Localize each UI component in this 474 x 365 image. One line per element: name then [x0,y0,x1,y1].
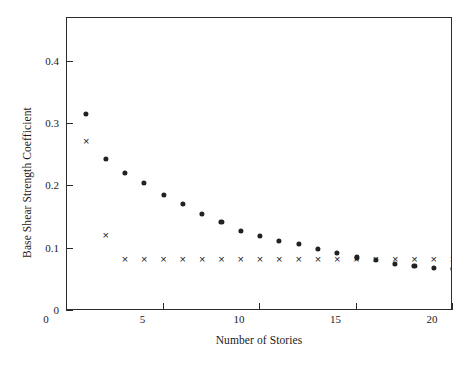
chart-figure: Base Shear Strength Coefficient 00.10.20… [0,0,474,365]
data-point-dot [450,267,452,272]
plot-area [66,17,452,310]
data-point-dot [200,211,205,216]
x-axis-tick-label: 0 [26,313,66,325]
data-point-dot [315,247,320,252]
data-point-dot [257,233,262,238]
data-point-dot [393,262,398,267]
data-point-dot [296,242,301,247]
data-point-dot [122,170,127,175]
x-axis-tick-label: 10 [219,313,259,325]
data-point-cross [217,255,225,263]
data-point-cross [256,255,264,263]
x-axis-tick-label: 20 [412,313,452,325]
data-point-cross [410,255,418,263]
data-point-dot [354,255,359,260]
y-axis-tick-label: 0.2 [0,179,59,191]
data-point-cross [82,137,90,145]
data-point-dot [142,180,147,185]
x-axis-tick-label: 15 [316,313,356,325]
x-axis-tick [452,303,453,310]
data-point-cross [198,255,206,263]
data-point-cross [314,255,322,263]
data-point-cross [372,255,380,263]
y-axis-tick-label: 0.4 [0,55,59,67]
data-point-cross [333,255,341,263]
data-point-cross [140,255,148,263]
data-point-cross [430,255,438,263]
x-axis-tick-label: 5 [123,313,163,325]
data-point-cross [275,255,283,263]
data-point-cross [179,255,187,263]
data-point-cross [121,255,129,263]
data-point-dot [412,264,417,269]
data-point-dot [431,265,436,270]
data-point-cross [391,255,399,263]
data-point-dot [84,111,89,116]
data-point-dot [180,201,185,206]
data-point-cross [353,255,361,263]
data-point-cross [295,255,303,263]
y-axis-tick-label: 0.1 [0,242,59,254]
data-point-dot [161,192,166,197]
x-axis-title: Number of Stories [66,334,452,346]
y-axis-tick-label: 0.3 [0,117,59,129]
data-point-cross [449,255,452,263]
data-point-dot [219,219,224,224]
data-point-cross [160,255,168,263]
data-point-cross [102,231,110,239]
data-point-dot [373,257,378,262]
data-point-dot [238,229,243,234]
y-axis-tick [66,310,73,311]
data-point-cross [237,255,245,263]
data-point-dot [335,250,340,255]
data-point-dot [103,156,108,161]
data-point-dot [277,238,282,243]
